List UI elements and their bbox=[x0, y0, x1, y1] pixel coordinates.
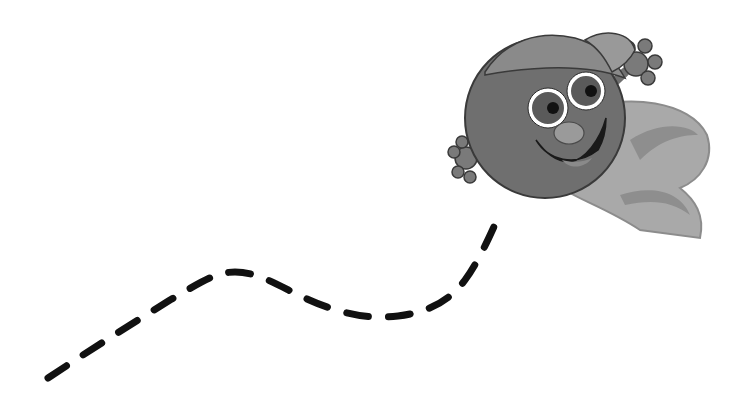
dashed-trail bbox=[48, 220, 497, 378]
illustration bbox=[0, 0, 751, 411]
nose bbox=[554, 122, 584, 144]
